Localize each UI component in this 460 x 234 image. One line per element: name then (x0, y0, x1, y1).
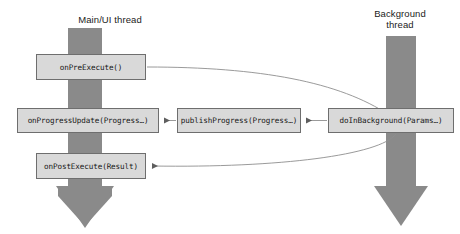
asynctask-lifecycle-diagram: Main/UI thread Background thread onPreEx… (0, 0, 460, 234)
node-on-pre-execute[interactable]: onPreExecute() (36, 54, 146, 80)
connector-do-in-background-to-on-post-execute (152, 134, 396, 166)
lane-label-main-ui-thread: Main/UI thread (45, 14, 175, 25)
node-publish-progress[interactable]: publishProgress(Progress…) (177, 108, 301, 133)
node-do-in-background[interactable]: doInBackground(Params…) (328, 108, 454, 133)
node-on-post-execute[interactable]: onPostExecute(Result) (36, 153, 146, 179)
lane-label-background-thread: Background thread (355, 8, 445, 30)
node-on-progress-update[interactable]: onProgressUpdate(Progress…) (17, 108, 159, 133)
